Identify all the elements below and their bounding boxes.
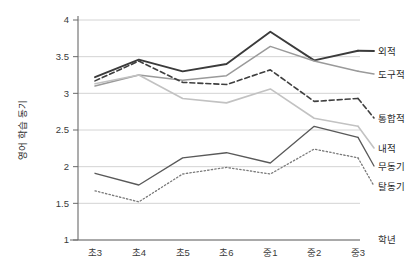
x-tick-label: 중3 bbox=[351, 247, 365, 258]
legend-label-내적: 내적 bbox=[378, 143, 396, 154]
legend-label-통합적: 통합적 bbox=[378, 113, 405, 124]
y-tick-labels: 11.522.533.54 bbox=[56, 14, 78, 245]
y-tick-label: 2.5 bbox=[56, 124, 69, 135]
line-chart: 11.522.533.54 초3초4초5초6중1중2중3 외적도구적통합적내적무… bbox=[0, 0, 415, 270]
series-lines bbox=[95, 32, 358, 202]
x-tick-label: 초6 bbox=[219, 247, 233, 258]
x-tick-label: 초4 bbox=[132, 247, 146, 258]
chart-container: 11.522.533.54 초3초4초5초6중1중2중3 외적도구적통합적내적무… bbox=[0, 0, 415, 270]
series-line-외적 bbox=[95, 32, 358, 77]
legend-label-무동기: 무동기 bbox=[378, 161, 405, 172]
x-tick-label: 초3 bbox=[88, 247, 102, 258]
y-tick-label: 3 bbox=[64, 88, 69, 99]
x-tick-labels: 초3초4초5초6중1중2중3 bbox=[88, 247, 365, 258]
y-tick-label: 1 bbox=[64, 234, 69, 245]
legend-label-탈동기: 탈동기 bbox=[378, 181, 405, 192]
legend-label-외적: 외적 bbox=[378, 46, 396, 57]
legend-connector-도구적 bbox=[358, 71, 374, 74]
legend-connector-lines bbox=[358, 51, 374, 186]
series-line-무동기 bbox=[95, 126, 358, 185]
series-line-통합적 bbox=[95, 61, 358, 101]
series-line-도구적 bbox=[95, 46, 358, 86]
y-axis-title: 영어 학습 동기 bbox=[17, 100, 28, 159]
legend-label-도구적: 도구적 bbox=[378, 69, 405, 80]
legend-connector-통합적 bbox=[358, 98, 374, 118]
y-tick-label: 3.5 bbox=[56, 51, 69, 62]
x-axis-title: 학년 bbox=[378, 234, 396, 245]
x-tick-label: 중1 bbox=[263, 247, 277, 258]
series-line-탈동기 bbox=[95, 149, 358, 202]
x-tick-label: 중2 bbox=[307, 247, 321, 258]
legend-labels: 외적도구적통합적내적무동기탈동기 bbox=[378, 46, 405, 192]
y-tick-label: 4 bbox=[64, 14, 69, 25]
gridlines bbox=[78, 20, 360, 240]
x-tick-label: 초5 bbox=[176, 247, 190, 258]
legend-connector-내적 bbox=[358, 126, 374, 148]
y-tick-label: 1.5 bbox=[56, 198, 69, 209]
y-tick-label: 2 bbox=[64, 161, 69, 172]
